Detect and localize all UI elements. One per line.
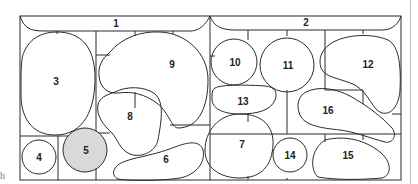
region-6-shape xyxy=(114,143,204,181)
region-5-label: 5 xyxy=(83,145,89,156)
region-6-label: 6 xyxy=(163,154,169,165)
region-1-label: 1 xyxy=(113,18,119,29)
region-12-label: 12 xyxy=(362,59,374,70)
region-10-label: 10 xyxy=(229,57,241,68)
region-7-label: 7 xyxy=(239,139,245,150)
region-16-label: 16 xyxy=(322,105,334,116)
right-edge-divider xyxy=(410,0,411,184)
region-11-label: 11 xyxy=(283,60,294,71)
region-14-label: 14 xyxy=(284,150,296,161)
region-15-label: 15 xyxy=(342,150,354,161)
region-13-label: 13 xyxy=(237,96,249,107)
region-8-label: 8 xyxy=(127,111,133,122)
region-9-label: 9 xyxy=(169,59,175,70)
region-3-label: 3 xyxy=(53,76,59,87)
region-4-label: 4 xyxy=(36,152,42,163)
region-9-shape xyxy=(99,32,208,128)
side-label: h xyxy=(0,170,5,181)
region-diagram: 1 2 3 4 5 6 7 8 9 10 11 12 13 14 15 16 xyxy=(0,0,418,184)
region-2-label: 2 xyxy=(303,17,309,28)
